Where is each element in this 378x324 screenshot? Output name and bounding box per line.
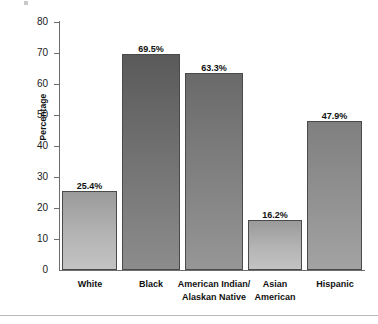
x-label-american-indian-alaskan-native: American Indian/ Alaskan Native <box>173 278 255 303</box>
x-label-white: White <box>54 278 126 291</box>
y-tick-50: 50 <box>26 110 48 120</box>
y-axis-line <box>59 21 60 271</box>
y-tick-30: 30 <box>26 172 48 182</box>
x-label-asian-line2: American <box>245 291 305 304</box>
bar-asian-american[interactable] <box>248 220 302 270</box>
y-tick-80: 80 <box>26 17 48 27</box>
x-label-hispanic-line1: Hispanic <box>316 279 354 289</box>
y-tick-label-70: 70 <box>26 48 48 58</box>
y-tick-label-50: 50 <box>26 110 48 120</box>
x-label-white-line1: White <box>78 279 103 289</box>
y-tick-70: 70 <box>26 48 48 58</box>
x-label-asian-line1: Asian <box>263 279 288 289</box>
y-tick-label-10: 10 <box>26 234 48 244</box>
y-tick-label-20: 20 <box>26 203 48 213</box>
y-tick-label-40: 40 <box>26 141 48 151</box>
bar-value-american-indian-alaskan-native: 63.3% <box>185 63 243 73</box>
y-tick-40: 40 <box>26 141 48 151</box>
bar-white[interactable] <box>62 191 117 270</box>
x-axis-line <box>59 270 365 271</box>
bar-hispanic[interactable] <box>307 121 362 270</box>
bar-value-asian-american: 16.2% <box>248 210 302 220</box>
x-label-aian-line1: American Indian/ <box>178 279 251 289</box>
x-label-aian-line2: Alaskan Native <box>173 291 255 304</box>
y-tick-label-60: 60 <box>26 79 48 89</box>
x-label-hispanic: Hispanic <box>304 278 366 291</box>
y-tick-label-80: 80 <box>26 17 48 27</box>
bar-american-indian-alaskan-native[interactable] <box>185 73 243 270</box>
y-tick-0: 0 <box>26 265 48 275</box>
footer-divider <box>0 315 378 316</box>
bar-value-hispanic: 47.9% <box>307 111 362 121</box>
y-tick-label-0: 0 <box>26 265 48 275</box>
y-tick-60: 60 <box>26 79 48 89</box>
bar-value-white: 25.4% <box>62 181 117 191</box>
y-tick-10: 10 <box>26 234 48 244</box>
x-label-black-line1: Black <box>139 279 163 289</box>
y-tick-20: 20 <box>26 203 48 213</box>
scan-artifact-speck <box>24 1 28 5</box>
x-label-asian-american: Asian American <box>245 278 305 303</box>
bar-chart-figure: Percentage 80 70 60 50 40 30 20 10 0 25.… <box>0 0 378 324</box>
bar-black[interactable] <box>122 54 180 270</box>
y-tick-label-30: 30 <box>26 172 48 182</box>
bar-value-black: 69.5% <box>122 44 180 54</box>
